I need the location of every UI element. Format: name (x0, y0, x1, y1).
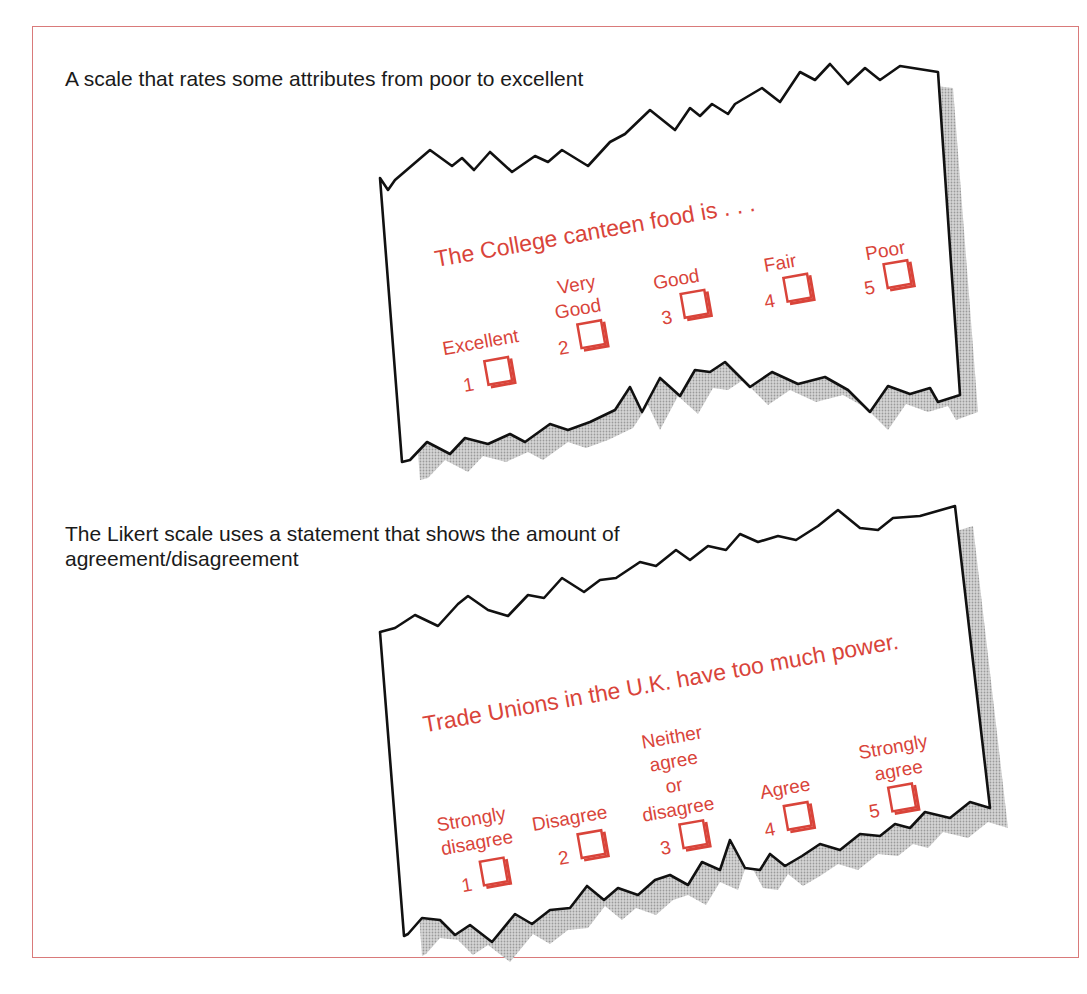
panel-2-card: Trade Unions in the U.K. have too much p… (380, 506, 1008, 962)
checkbox-icon[interactable] (888, 784, 916, 812)
panel-1-card: The College canteen food is . . . Excell… (380, 64, 978, 480)
checkbox-icon[interactable] (577, 320, 605, 348)
diagram-canvas: The College canteen food is . . . Excell… (0, 0, 1087, 994)
checkbox-icon[interactable] (784, 802, 812, 830)
checkbox-icon[interactable] (679, 820, 707, 848)
checkbox-icon[interactable] (783, 274, 811, 302)
checkbox-icon[interactable] (884, 260, 912, 288)
checkbox-icon[interactable] (681, 290, 709, 318)
checkbox-icon[interactable] (578, 830, 606, 858)
checkbox-icon[interactable] (484, 357, 512, 385)
checkbox-icon[interactable] (480, 858, 508, 886)
